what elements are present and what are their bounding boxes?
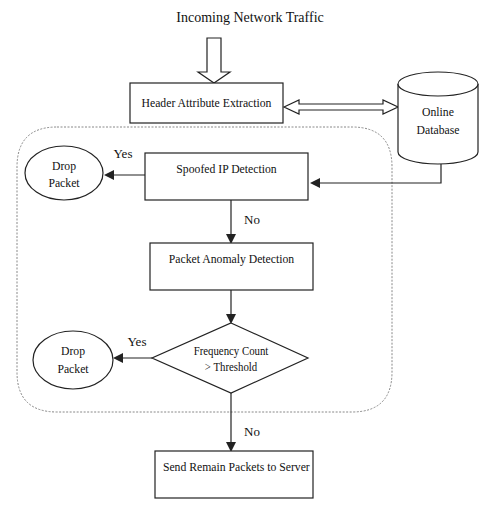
- drop-packet-2-line2: Packet: [37, 361, 109, 376]
- decision-label-line1: Frequency Count: [182, 344, 281, 359]
- drop-packet-2-line1: Drop: [37, 343, 109, 358]
- spoofed-no-label: No: [241, 212, 263, 227]
- send-to-server-label: Send Remain Packets to Server: [163, 459, 305, 474]
- header-extraction-label: Header Attribute Extraction: [138, 95, 276, 110]
- title-text: Incoming Network Traffic: [140, 10, 360, 25]
- decision-label-line2: > Threshold: [182, 360, 281, 375]
- db-to-spoofed-arrow: [312, 164, 441, 183]
- drop-packet-ellipse-1: [25, 146, 103, 200]
- database-label-line1: Online: [402, 104, 474, 119]
- drop-packet-1-line2: Packet: [29, 175, 99, 190]
- drop-packet-1-line1: Drop: [29, 158, 99, 173]
- spoofed-yes-label: Yes: [108, 146, 138, 161]
- spoofed-ip-label: Spoofed IP Detection: [153, 161, 300, 176]
- decision-no-label: No: [241, 424, 263, 439]
- bidirectional-arrow-icon: [284, 100, 398, 114]
- decision-yes-label: Yes: [122, 334, 152, 349]
- database-label-line2: Database: [402, 122, 474, 137]
- packet-anomaly-label: Packet Anomaly Detection: [158, 251, 305, 266]
- drop-packet-ellipse-2: [33, 331, 113, 389]
- incoming-arrow-icon: [198, 38, 230, 83]
